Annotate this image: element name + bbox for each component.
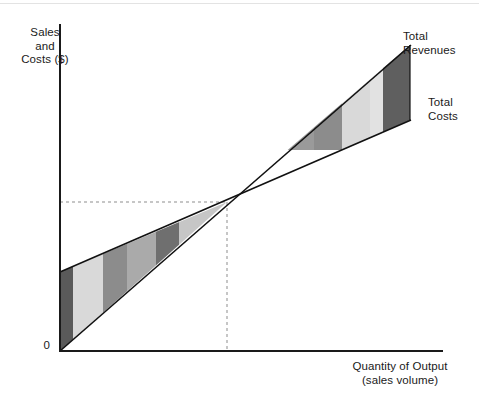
loss-band-1 (60, 190, 73, 365)
profit-band-4 (342, 30, 370, 150)
total-revenues-label: Total Revenues (403, 30, 475, 57)
x-axis-label: Quantity of Output (sales volume) (338, 360, 462, 387)
profit-band-5 (370, 30, 383, 150)
total-revenues-line (60, 45, 411, 351)
loss-band-2 (73, 190, 103, 365)
total-costs-label: Total Costs (428, 96, 476, 123)
loss-band-6 (179, 190, 229, 365)
loss-band-4 (127, 190, 156, 365)
y-axis-label: Sales and Costs ($) (16, 26, 74, 67)
total-costs-line (60, 120, 411, 272)
origin-label: 0 (38, 339, 50, 353)
profit-band-2 (283, 30, 314, 150)
loss-band-3 (103, 190, 127, 365)
profit-band-3 (314, 30, 342, 150)
profit-band-1 (225, 30, 283, 150)
chart-canvas: Sales and Costs ($) Quantity of Output (… (0, 0, 479, 394)
loss-band-5 (156, 190, 179, 365)
